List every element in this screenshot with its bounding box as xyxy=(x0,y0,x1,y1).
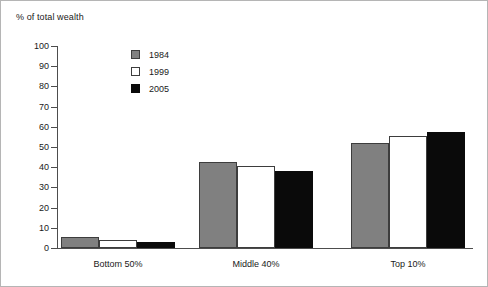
bar-2005-top-10-[interactable] xyxy=(427,132,465,248)
y-axis-tick-label: 70 xyxy=(5,102,49,112)
y-axis-tick-label: 50 xyxy=(5,142,49,152)
y-axis-tick-label: 80 xyxy=(5,81,49,91)
y-axis-tick-label: 20 xyxy=(5,203,49,213)
legend-label: 2005 xyxy=(149,84,169,94)
legend-label: 1984 xyxy=(149,50,169,60)
chart-legend: 198419992005 xyxy=(131,46,169,97)
legend-item-2005[interactable]: 2005 xyxy=(131,80,169,97)
legend-swatch-icon xyxy=(131,50,140,59)
legend-swatch-icon xyxy=(131,84,140,93)
bar-2005-bottom-50-[interactable] xyxy=(137,242,175,248)
bar-group xyxy=(351,46,465,248)
y-axis-tick xyxy=(51,248,57,249)
y-axis-tick-label: 100 xyxy=(5,41,49,51)
bar-group xyxy=(199,46,313,248)
bar-1999-bottom-50-[interactable] xyxy=(99,240,137,248)
bar-1984-middle-40-[interactable] xyxy=(199,162,237,248)
bar-1984-bottom-50-[interactable] xyxy=(61,237,99,248)
legend-swatch-icon xyxy=(131,67,140,76)
x-axis-line xyxy=(57,248,473,249)
y-axis-tick-label: 60 xyxy=(5,122,49,132)
chart-figure: % of total wealth 1009080706050403020100… xyxy=(0,0,488,287)
y-axis-tick-label: 90 xyxy=(5,61,49,71)
bar-1984-top-10-[interactable] xyxy=(351,143,389,248)
legend-item-1999[interactable]: 1999 xyxy=(131,63,169,80)
x-axis-label-top-10-: Top 10% xyxy=(390,259,425,269)
y-axis-tick-label: 10 xyxy=(5,223,49,233)
y-axis-tick-label: 40 xyxy=(5,162,49,172)
y-axis-tick-label: 0 xyxy=(5,243,49,253)
y-axis-tick-label: 30 xyxy=(5,182,49,192)
bar-1999-middle-40-[interactable] xyxy=(237,166,275,248)
legend-label: 1999 xyxy=(149,67,169,77)
y-axis-tick-labels: 1009080706050403020100 xyxy=(1,1,49,287)
bar-1999-top-10-[interactable] xyxy=(389,136,427,248)
x-axis-label-bottom-50-: Bottom 50% xyxy=(93,259,142,269)
x-axis-label-middle-40-: Middle 40% xyxy=(232,259,279,269)
plot-area xyxy=(57,46,473,248)
bar-2005-middle-40-[interactable] xyxy=(275,171,313,248)
legend-item-1984[interactable]: 1984 xyxy=(131,46,169,63)
